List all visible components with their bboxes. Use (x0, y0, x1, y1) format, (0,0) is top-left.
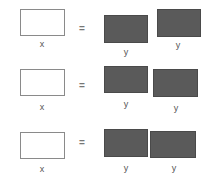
y-box-1 (104, 66, 148, 93)
x-box (20, 132, 65, 159)
y-label-1: y (120, 48, 132, 57)
y-label-2: y (168, 164, 180, 173)
x-box (20, 69, 65, 96)
y-box-2 (150, 131, 196, 158)
y-label-2: y (170, 104, 182, 113)
x-label: x (36, 103, 48, 112)
y-box-2 (153, 69, 198, 97)
x-label: x (36, 165, 48, 174)
y-label-2: y (172, 41, 184, 50)
y-label-1: y (120, 100, 132, 109)
x-label: x (36, 40, 48, 49)
y-box-1 (104, 129, 148, 157)
equals-sign: = (76, 81, 88, 91)
x-box (20, 9, 65, 36)
y-label-1: y (120, 164, 132, 173)
y-box-1 (104, 15, 148, 43)
equals-sign: = (76, 138, 88, 148)
equals-sign: = (76, 24, 88, 34)
y-box-2 (157, 9, 201, 37)
